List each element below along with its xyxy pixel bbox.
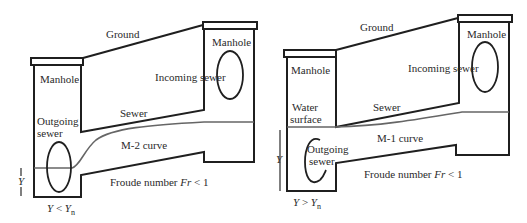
left-downstream-manhole-cap (31, 58, 83, 65)
left-upstream-manhole-cap (203, 22, 257, 29)
left-upstream-manhole-label: Manhole (212, 36, 251, 48)
right-water-surface-label-line1: Water (292, 101, 318, 113)
right-panel-m1: Ground Manhole Manhole Incoming sewer Se… (276, 15, 512, 211)
right-m1-curve-label: M-1 curve (377, 132, 423, 144)
left-outgoing-sewer-label-line2: sewer (37, 127, 63, 139)
sewer-flow-diagram: Ground Manhole Manhole Incoming sewer Se… (0, 0, 527, 223)
left-outgoing-pipe-ellipse (47, 142, 71, 192)
left-depth-symbol: Y (18, 175, 26, 187)
right-depth-symbol: Y (276, 153, 284, 165)
left-ground-label: Ground (106, 28, 140, 40)
left-condition-label: Y < Yn (47, 202, 75, 217)
right-froude-label: Froude number Fr < 1 (364, 168, 462, 180)
left-sewer-label: Sewer (120, 107, 148, 119)
left-downstream-manhole-label: Manhole (40, 73, 79, 85)
right-ground-line (336, 18, 458, 50)
right-sewer-label: Sewer (373, 101, 401, 113)
right-upstream-manhole-cap (458, 15, 512, 22)
left-froude-label: Froude number Fr < 1 (110, 176, 208, 188)
left-m2-curve-label: M-2 curve (121, 139, 167, 151)
left-incoming-sewer-label: Incoming sewer (155, 71, 226, 83)
right-downstream-manhole-cap (284, 50, 336, 57)
right-outgoing-pipe-arc-lower (320, 170, 326, 180)
right-outgoing-sewer-label-line2: sewer (309, 155, 335, 167)
right-upstream-manhole-label: Manhole (467, 28, 506, 40)
right-outgoing-sewer-label-line1: Outgoing (307, 143, 349, 155)
right-water-surface-label-line2: surface (290, 113, 322, 125)
right-downstream-manhole-label: Manhole (291, 64, 330, 76)
left-ground-line (83, 25, 203, 58)
right-incoming-sewer-label: Incoming sewer (408, 62, 479, 74)
left-panel-m2: Ground Manhole Manhole Incoming sewer Se… (18, 22, 257, 217)
left-outgoing-sewer-label-line1: Outgoing (37, 115, 79, 127)
right-ground-label: Ground (360, 21, 394, 33)
right-condition-label: Y > Yn (293, 196, 321, 211)
